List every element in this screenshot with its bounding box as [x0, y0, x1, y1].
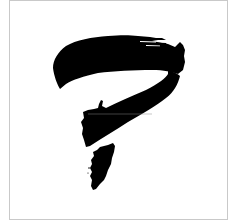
descending-curve-stroke [81, 70, 180, 147]
ink-speckle [88, 167, 90, 169]
artwork-canvas: Ink brush question mark [0, 0, 231, 223]
question-mark-brush-icon [0, 0, 231, 223]
bottom-dot-stroke [90, 143, 115, 190]
ink-speckle [87, 172, 88, 173]
